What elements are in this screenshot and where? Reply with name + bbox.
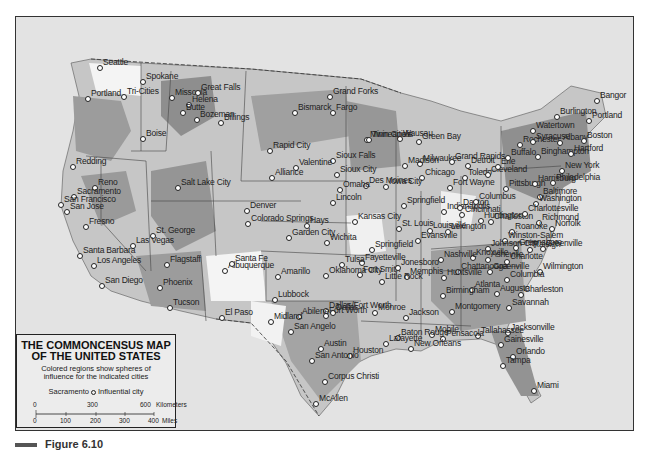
- legend-example-label: Influential city: [98, 387, 143, 396]
- city-label: Grand Forks: [333, 87, 378, 96]
- legend-example-city: Sacramento: [49, 387, 89, 396]
- city-label: Boise: [146, 129, 166, 138]
- mile-tick-0: 0: [33, 417, 37, 424]
- city-label: Boston: [587, 131, 612, 140]
- city-label: Oklahoma City: [329, 266, 382, 275]
- city-label: Amarillo: [281, 267, 310, 276]
- city-label: Hays: [310, 216, 329, 225]
- mile-tick-300: 300: [119, 417, 130, 424]
- city-label: Augusta: [500, 284, 530, 293]
- city-label: San Diego: [105, 276, 143, 285]
- city-label: Portland: [592, 111, 622, 120]
- city-label: Philadelphia: [556, 173, 600, 182]
- city-label: Rapid City: [273, 141, 310, 150]
- city-label: Watertown: [536, 121, 575, 130]
- map-subtitle-line2: influence for the indicated cities: [17, 373, 175, 381]
- caption-bar: [15, 443, 37, 447]
- city-label: Lafayette: [389, 334, 422, 343]
- city-label: Buffalo: [511, 148, 536, 157]
- city-label: Alliance: [275, 168, 303, 177]
- city-label: Denver: [250, 201, 276, 210]
- city-label: Columbus: [479, 192, 516, 201]
- city-label: San Antonio: [315, 351, 359, 360]
- city-dot-icon: [91, 390, 96, 395]
- city-label: Omaha: [343, 180, 370, 189]
- city-label: Fort Worth: [329, 306, 367, 315]
- city-label: Tampa: [506, 356, 531, 365]
- city-label: Bismarck: [298, 103, 331, 112]
- city-label: Seattle: [103, 58, 128, 67]
- city-label: Salt Lake City: [181, 178, 231, 187]
- city-label: Green Bay: [422, 132, 461, 141]
- city-label: Chicago: [425, 168, 455, 177]
- city-label: Fresno: [89, 217, 114, 226]
- city-label: Redding: [76, 157, 106, 166]
- mile-unit: Miles: [162, 417, 177, 424]
- city-label: Lincoln: [336, 193, 362, 202]
- city-label: Washington: [539, 194, 582, 203]
- city-label: Burlington: [560, 107, 596, 116]
- city-label: Savannah: [512, 298, 549, 307]
- city-label: Huntsville: [447, 268, 482, 277]
- city-label: Great Falls: [201, 83, 240, 92]
- city-label: Hartford: [574, 144, 603, 153]
- city-label: Norfolk: [555, 219, 581, 228]
- city-label: New York: [565, 161, 599, 170]
- city-label: Sioux City: [340, 165, 376, 174]
- city-label: St. Louis: [402, 219, 433, 228]
- city-label: Valentine: [299, 158, 332, 167]
- city-label: Kansas City: [358, 212, 401, 221]
- city-label: Garden City: [292, 228, 335, 237]
- mile-tick-400: 400: [148, 417, 159, 424]
- city-label: San Angelo: [294, 322, 335, 331]
- city-label: San Jose: [70, 202, 104, 211]
- city-label: St. George: [156, 226, 195, 235]
- city-label: Madison: [408, 156, 439, 165]
- city-label: Santa Barbara: [83, 246, 135, 255]
- km-unit: Kilometers: [156, 401, 187, 408]
- city-label: El Paso: [225, 308, 253, 317]
- city-label: Jackson: [409, 308, 439, 317]
- city-label: Tri-Cities: [127, 87, 159, 96]
- city-label: Springfield: [375, 240, 413, 249]
- city-label: Fort Wayne: [453, 178, 495, 187]
- city-label: Greenville: [546, 239, 582, 248]
- city-label: Columbia: [510, 270, 544, 279]
- city-label: Flagstaff: [170, 255, 201, 264]
- city-label: McAllen: [319, 394, 348, 403]
- scale-bar: 0 300 600 Kilometers 0 100 200 300 400 M…: [30, 404, 180, 424]
- city-label: Phoenix: [163, 278, 192, 287]
- city-label: Nashville: [444, 250, 477, 259]
- city-label: Abilene: [302, 307, 329, 316]
- caption-text: Figure 6.10: [45, 438, 103, 450]
- city-label: Miami: [537, 381, 559, 390]
- city-label: Austin: [324, 339, 346, 348]
- city-label: Tulsa: [345, 255, 364, 264]
- city-label: Lubbock: [278, 290, 309, 299]
- km-tick-0: 0: [33, 401, 37, 408]
- legend-key: SacramentoInfluential city: [17, 387, 175, 396]
- map-title-line2: OF THE UNITED STATES: [17, 351, 175, 362]
- city-label: Santa Fe: [235, 254, 268, 263]
- mile-tick-100: 100: [60, 417, 71, 424]
- city-label: Tucson: [173, 298, 199, 307]
- city-label: Las Vegas: [136, 236, 174, 245]
- km-tick-600: 600: [140, 401, 151, 408]
- mile-tick-200: 200: [90, 417, 101, 424]
- city-label: Evansville: [421, 231, 457, 240]
- city-label: Spokane: [146, 72, 178, 81]
- city-label: Iowa City: [389, 177, 422, 186]
- city-label: Los Angeles: [97, 256, 141, 265]
- city-label: Charlotte: [510, 252, 543, 261]
- figure-caption: Figure 6.10: [15, 438, 103, 450]
- city-label: Gainesville: [504, 335, 543, 344]
- city-label: Montgomery: [455, 302, 500, 311]
- city-label: Jonesboro: [401, 258, 439, 267]
- city-label: Springfield: [407, 196, 445, 205]
- city-label: Fayetteville: [365, 253, 406, 262]
- city-label: Midland: [274, 312, 302, 321]
- city-label: Fargo: [336, 103, 357, 112]
- city-label: Birmingham: [446, 286, 489, 295]
- km-tick-300: 300: [87, 401, 98, 408]
- city-label: Bangor: [600, 91, 626, 100]
